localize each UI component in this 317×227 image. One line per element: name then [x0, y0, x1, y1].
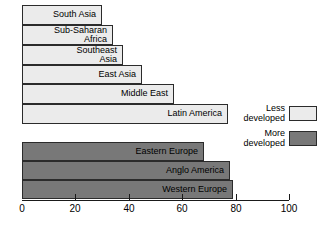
legend-label-line2: developed — [243, 139, 285, 149]
bar-label-line2: Asia — [76, 55, 117, 65]
bar-label-line1: Latin America — [167, 109, 222, 119]
x-axis-tick-label: 40 — [123, 203, 134, 214]
legend-label-more-developed: More developed — [243, 129, 285, 148]
bar-label-line1: East Asia — [98, 70, 136, 80]
bar-label: East Asia — [98, 70, 136, 80]
bar-western-europe: Western Europe — [22, 180, 233, 199]
bar-southeast: SoutheastAsia — [22, 45, 123, 65]
bar-label: Eastern Europe — [135, 147, 198, 157]
x-axis-tick — [75, 194, 76, 200]
x-axis-tick — [182, 194, 183, 200]
bar-label-line1: Anglo America — [166, 166, 224, 176]
bar-middle-east: Middle East — [22, 84, 174, 104]
bar-label: Latin America — [167, 109, 222, 119]
axis-line — [22, 200, 289, 201]
bar-east-asia: East Asia — [22, 65, 142, 84]
x-axis-tick-label: 60 — [176, 203, 187, 214]
x-axis-tick — [129, 194, 130, 200]
bar-label: Anglo America — [166, 166, 224, 176]
bar-label: South Asia — [53, 10, 96, 20]
bar-south-asia: South Asia — [22, 5, 102, 25]
legend-item-more-developed: More developed — [222, 129, 317, 148]
bar-label-line1: Middle East — [121, 89, 168, 99]
bar-chart: South AsiaSub-SaharanAfricaSoutheastAsia… — [0, 0, 317, 227]
bar-label-line1: South Asia — [53, 10, 96, 20]
x-axis-tick — [289, 194, 290, 200]
bar-label: Middle East — [121, 89, 168, 99]
x-axis-tick-label: 20 — [69, 203, 80, 214]
x-axis-tick-label: 100 — [281, 203, 298, 214]
bar-label-line1: Western Europe — [162, 185, 227, 195]
legend-swatch-more-developed — [289, 131, 317, 146]
x-axis-tick-label: 80 — [230, 203, 241, 214]
bar-label: SoutheastAsia — [76, 46, 117, 65]
legend-item-less-developed: Less developed — [222, 104, 317, 123]
bar-label: Western Europe — [162, 185, 227, 195]
x-axis-tick — [236, 194, 237, 200]
legend-swatch-less-developed — [289, 106, 317, 121]
legend-label-line2: developed — [243, 114, 285, 124]
bar-label-line2: Africa — [54, 35, 107, 45]
x-axis-tick-label: 0 — [19, 203, 25, 214]
bar-sub-saharan: Sub-SaharanAfrica — [22, 25, 113, 45]
bar-latin-america: Latin America — [22, 104, 228, 124]
bar-anglo-america: Anglo America — [22, 161, 230, 180]
legend-label-less-developed: Less developed — [243, 104, 285, 123]
chart-legend: Less developed More developed — [222, 104, 317, 154]
bar-label: Sub-SaharanAfrica — [54, 26, 107, 45]
bar-label-line1: Eastern Europe — [135, 147, 198, 157]
bar-eastern-europe: Eastern Europe — [22, 142, 204, 161]
